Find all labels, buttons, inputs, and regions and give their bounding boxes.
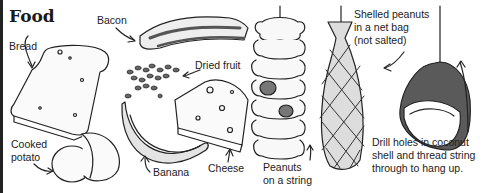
label-bacon: Bacon xyxy=(97,14,127,27)
bacon-icon xyxy=(116,17,248,49)
label-dried-fruit: Dried fruit xyxy=(195,59,241,72)
food-illustration: Food xyxy=(0,0,490,193)
label-bread: Bread xyxy=(9,40,37,53)
peanuts-on-string-icon xyxy=(252,6,313,160)
label-coconut-line1: Drill holes in coconut xyxy=(372,136,469,149)
label-cooked-potato-line2: potato xyxy=(11,151,40,164)
label-net-bag-line3: (not salted) xyxy=(354,34,407,47)
label-cheese: Cheese xyxy=(208,162,244,175)
coconut-shell-icon xyxy=(400,6,470,150)
label-cooked-potato-line1: Cooked xyxy=(11,138,47,151)
label-peanuts-string-line1: Peanuts xyxy=(263,161,302,174)
label-banana: Banana xyxy=(153,166,189,179)
label-peanuts-string-line2: on a string xyxy=(263,174,312,187)
label-net-bag-line2: in a net bag xyxy=(354,21,409,34)
label-coconut-line2: shell and thread string xyxy=(372,149,475,162)
label-coconut-line3: through to hang up. xyxy=(372,162,463,175)
label-net-bag-line1: Shelled peanuts xyxy=(354,8,429,21)
cheese-icon xyxy=(175,80,248,162)
dried-fruit-icon xyxy=(125,64,179,98)
